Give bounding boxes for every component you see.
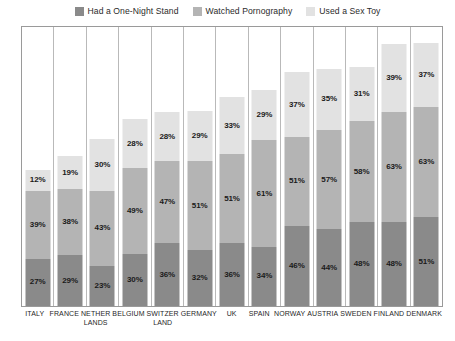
bar-segment-stand[interactable]: 27% bbox=[25, 259, 50, 306]
bar-segment-value: 37% bbox=[419, 71, 435, 79]
bar-cell: 28%47%36% bbox=[152, 27, 184, 306]
bar-segment-value: 23% bbox=[95, 282, 111, 290]
x-axis-label-line: LAND bbox=[147, 318, 179, 327]
x-axis-label: DENMARK bbox=[405, 309, 443, 327]
bar-segment-value: 51% bbox=[224, 195, 240, 203]
bar-segment-stand[interactable]: 36% bbox=[220, 243, 245, 306]
stacked-bar[interactable]: 35%57%44% bbox=[317, 69, 342, 306]
stacked-bar[interactable]: 37%51%46% bbox=[284, 72, 309, 306]
bar-segment-toy[interactable]: 33% bbox=[220, 97, 245, 155]
bar-segment-toy[interactable]: 28% bbox=[122, 119, 147, 168]
bar-segment-toy[interactable]: 30% bbox=[90, 139, 115, 191]
x-axis-label-line: AUSTRIA bbox=[307, 309, 338, 318]
bar-segment-stand[interactable]: 32% bbox=[187, 250, 212, 306]
bar-segment-value: 29% bbox=[192, 132, 208, 140]
bar-segment-porn[interactable]: 43% bbox=[90, 191, 115, 266]
stacked-bar[interactable]: 30%43%23% bbox=[90, 139, 115, 306]
x-axis-label-line: SWITZER bbox=[147, 309, 179, 318]
bar-segment-toy[interactable]: 31% bbox=[349, 67, 374, 121]
stacked-bar[interactable]: 28%49%30% bbox=[122, 119, 147, 306]
bar-segment-stand[interactable]: 48% bbox=[349, 222, 374, 306]
bar-segment-toy[interactable]: 37% bbox=[284, 72, 309, 137]
stacked-bar[interactable]: 29%51%32% bbox=[187, 111, 212, 306]
bar-segment-toy[interactable]: 29% bbox=[252, 90, 277, 141]
bar-segment-toy[interactable]: 39% bbox=[381, 44, 406, 112]
bar-segment-stand[interactable]: 44% bbox=[317, 229, 342, 306]
bar-segment-porn[interactable]: 63% bbox=[414, 107, 439, 217]
bar-segment-value: 39% bbox=[386, 74, 402, 82]
x-axis-label-line: NETHER bbox=[81, 309, 110, 318]
bar-segment-stand[interactable]: 36% bbox=[155, 243, 180, 306]
bar-segment-porn[interactable]: 38% bbox=[58, 189, 83, 255]
bar-segment-value: 57% bbox=[321, 176, 337, 184]
bar-segment-value: 19% bbox=[62, 169, 78, 177]
bar-cell: 28%49%30% bbox=[119, 27, 151, 306]
chart-legend: Had a One-Night StandWatched Pornography… bbox=[0, 6, 455, 16]
bar-segment-toy[interactable]: 12% bbox=[25, 170, 50, 191]
legend-label-stand: Had a One-Night Stand bbox=[88, 6, 179, 16]
bar-cell: 19%38%29% bbox=[54, 27, 86, 306]
bar-segment-porn[interactable]: 58% bbox=[349, 121, 374, 222]
bar-segment-value: 30% bbox=[127, 276, 143, 284]
bar-cell: 33%51%36% bbox=[216, 27, 248, 306]
stacked-bar-chart: Had a One-Night StandWatched Pornography… bbox=[0, 0, 455, 341]
legend-entry-porn[interactable]: Watched Pornography bbox=[193, 6, 293, 16]
bar-segment-porn[interactable]: 51% bbox=[187, 161, 212, 250]
bar-segment-value: 49% bbox=[127, 207, 143, 215]
x-axis-label: FINLAND bbox=[373, 309, 406, 327]
bar-cell: 12%39%27% bbox=[22, 27, 54, 306]
bar-cell: 30%43%23% bbox=[87, 27, 119, 306]
bar-segment-value: 43% bbox=[95, 224, 111, 232]
legend-entry-toy[interactable]: Used a Sex Toy bbox=[306, 6, 380, 16]
bar-segment-stand[interactable]: 51% bbox=[414, 217, 439, 306]
bar-segment-stand[interactable]: 48% bbox=[381, 222, 406, 306]
bar-segment-value: 58% bbox=[354, 168, 370, 176]
bar-cell: 37%51%46% bbox=[281, 27, 313, 306]
bar-segment-porn[interactable]: 47% bbox=[155, 161, 180, 243]
stacked-bar[interactable]: 37%63%51% bbox=[414, 43, 439, 306]
x-axis-label: GERMANY bbox=[180, 309, 218, 327]
bar-segment-toy[interactable]: 35% bbox=[317, 69, 342, 130]
bar-segment-porn[interactable]: 51% bbox=[284, 137, 309, 226]
bar-segment-toy[interactable]: 28% bbox=[155, 112, 180, 161]
bar-segment-porn[interactable]: 57% bbox=[317, 130, 342, 229]
bar-segment-stand[interactable]: 30% bbox=[122, 254, 147, 306]
bar-segment-porn[interactable]: 51% bbox=[220, 154, 245, 243]
bar-segment-toy[interactable]: 19% bbox=[58, 156, 83, 189]
bar-segment-value: 63% bbox=[419, 158, 435, 166]
bar-segment-porn[interactable]: 63% bbox=[381, 112, 406, 222]
x-axis-label: AUSTRIA bbox=[306, 309, 339, 327]
bar-segment-porn[interactable]: 61% bbox=[252, 140, 277, 246]
stacked-bar[interactable]: 28%47%36% bbox=[155, 112, 180, 306]
bar-cell: 29%61%34% bbox=[249, 27, 281, 306]
stacked-bar[interactable]: 12%39%27% bbox=[25, 170, 50, 306]
bar-segment-value: 36% bbox=[224, 271, 240, 279]
stacked-bar[interactable]: 31%58%48% bbox=[349, 67, 374, 306]
bar-segment-value: 51% bbox=[289, 177, 305, 185]
bar-segment-porn[interactable]: 39% bbox=[25, 191, 50, 259]
legend-swatch-porn bbox=[193, 7, 202, 16]
bar-segment-stand[interactable]: 23% bbox=[90, 266, 115, 306]
stacked-bar[interactable]: 39%63%48% bbox=[381, 44, 406, 306]
x-axis-label: ITALY bbox=[21, 309, 49, 327]
bar-segment-stand[interactable]: 46% bbox=[284, 226, 309, 306]
bar-segment-stand[interactable]: 29% bbox=[58, 255, 83, 306]
bar-segment-value: 30% bbox=[95, 161, 111, 169]
bar-cell: 31%58%48% bbox=[346, 27, 378, 306]
stacked-bar[interactable]: 19%38%29% bbox=[58, 156, 83, 306]
bar-segment-value: 31% bbox=[354, 90, 370, 98]
stacked-bar[interactable]: 29%61%34% bbox=[252, 90, 277, 306]
bar-segment-value: 34% bbox=[257, 272, 273, 280]
bar-segment-toy[interactable]: 29% bbox=[187, 111, 212, 162]
legend-entry-stand[interactable]: Had a One-Night Stand bbox=[75, 6, 179, 16]
bar-cell: 37%63%51% bbox=[411, 27, 442, 306]
bar-segment-stand[interactable]: 34% bbox=[252, 247, 277, 306]
stacked-bar[interactable]: 33%51%36% bbox=[220, 97, 245, 306]
bar-segment-value: 32% bbox=[192, 274, 208, 282]
bar-segment-toy[interactable]: 37% bbox=[414, 43, 439, 108]
x-axis-label-line: SWEDEN bbox=[340, 309, 371, 318]
bar-segment-value: 37% bbox=[289, 101, 305, 109]
bar-segment-value: 35% bbox=[321, 95, 337, 103]
bar-segment-value: 29% bbox=[257, 111, 273, 119]
bar-segment-porn[interactable]: 49% bbox=[122, 168, 147, 253]
